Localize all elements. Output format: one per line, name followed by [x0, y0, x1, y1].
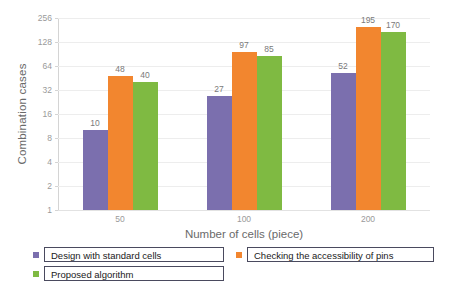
bar[interactable]: 48: [108, 76, 133, 210]
bar-value-label: 52: [338, 61, 347, 71]
y-axis-title: Combination cases: [16, 34, 28, 194]
tick-mark: [55, 186, 58, 187]
bar-value-label: 48: [115, 64, 124, 74]
legend-item-design-with-standard-cells[interactable]: Design with standard cells: [33, 247, 224, 262]
legend-label: Proposed algorithm: [44, 266, 224, 281]
tick-mark: [55, 162, 58, 163]
bar[interactable]: 52: [331, 73, 356, 210]
y-axis-tick-label: 2: [47, 181, 52, 191]
bar-value-label: 97: [239, 40, 248, 50]
legend-label: Checking the accessibility of pins: [247, 247, 434, 262]
bar-group-200: 52195170: [331, 18, 406, 210]
bar-group-50: 104840: [83, 18, 158, 210]
y-axis-tick-label: 256: [38, 13, 52, 23]
bar[interactable]: 195: [356, 27, 381, 210]
plot-area: 124816326412825610484027978552195170: [58, 18, 430, 210]
tick-mark: [55, 42, 58, 43]
bar[interactable]: 170: [381, 32, 406, 210]
bar-value-label: 195: [361, 15, 375, 25]
tick-mark: [55, 114, 58, 115]
x-axis-tick-label: 50: [115, 214, 124, 224]
tick-mark: [55, 138, 58, 139]
chart-legend: Design with standard cells Checking the …: [33, 247, 453, 289]
x-axis-title: Number of cells (piece): [58, 228, 430, 240]
tick-mark: [55, 66, 58, 67]
legend-color-swatch-icon: [33, 252, 39, 258]
y-axis-tick-label: 32: [43, 85, 52, 95]
legend-item-proposed-algorithm[interactable]: Proposed algorithm: [33, 266, 224, 281]
bar[interactable]: 27: [207, 96, 232, 210]
bar-value-label: 10: [90, 118, 99, 128]
bar-value-label: 170: [386, 20, 400, 30]
legend-label: Design with standard cells: [44, 247, 224, 262]
tick-mark: [55, 210, 58, 211]
bar[interactable]: 85: [257, 56, 282, 210]
tick-mark: [55, 18, 58, 19]
bar[interactable]: 40: [133, 82, 158, 210]
bar-value-label: 27: [214, 84, 223, 94]
tick-mark: [55, 90, 58, 91]
gridline: [58, 210, 430, 211]
y-axis-tick-label: 4: [47, 157, 52, 167]
legend-row-1: Design with standard cells Checking the …: [33, 247, 434, 262]
y-axis-tick-label: 128: [38, 37, 52, 47]
bar-value-label: 40: [140, 70, 149, 80]
legend-color-swatch-icon: [33, 271, 39, 277]
bar[interactable]: 97: [232, 52, 257, 210]
x-axis-tick-label: 200: [361, 214, 375, 224]
y-axis-tick-label: 64: [43, 61, 52, 71]
bar-group-100: 279785: [207, 18, 282, 210]
legend-row-2: Proposed algorithm: [33, 266, 224, 281]
y-axis-tick-label: 1: [47, 205, 52, 215]
bar[interactable]: 10: [83, 130, 108, 210]
y-axis-tick-label: 8: [47, 133, 52, 143]
bar-chart: Combination cases 1248163264128256104840…: [0, 0, 463, 294]
legend-color-swatch-icon: [236, 252, 242, 258]
legend-item-checking-the-accessibility-of-pins[interactable]: Checking the accessibility of pins: [236, 247, 434, 262]
y-axis-tick-label: 16: [43, 109, 52, 119]
x-axis-tick-label: 100: [237, 214, 251, 224]
bar-value-label: 85: [264, 44, 273, 54]
